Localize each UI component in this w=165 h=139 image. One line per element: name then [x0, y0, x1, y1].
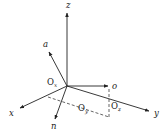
labels-group: zxyaonOxOyOz [9, 0, 159, 131]
offset-label-oz: Oz [111, 101, 121, 112]
axis-z-label: z [65, 0, 71, 10]
axis-y-label: y [153, 108, 159, 118]
vector-n-label: n [51, 121, 56, 131]
offset-label-ox: Ox [47, 77, 58, 88]
vector-o-label: o [112, 81, 117, 91]
coordinate-frame-diagram: zxyaonOxOyOz [0, 0, 165, 139]
axis-x-label: x [9, 108, 14, 118]
vector-a-label: a [43, 39, 48, 49]
axes-group [20, 13, 149, 111]
offset-label-oy: Oy [78, 103, 89, 115]
